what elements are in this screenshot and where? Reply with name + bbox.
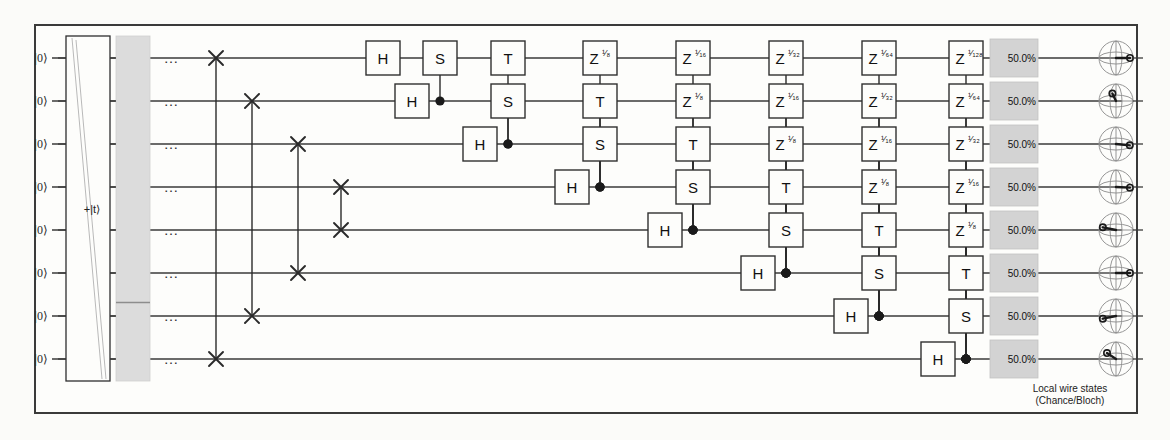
gate-label: S — [688, 179, 698, 196]
gate-label: T — [595, 93, 604, 110]
gate-label: H — [846, 308, 857, 325]
gate-box[interactable] — [862, 84, 896, 118]
gate-box[interactable] — [949, 41, 983, 75]
gate-box[interactable] — [862, 170, 896, 204]
chance-value: 50.0% — [1008, 354, 1036, 365]
gate-label: Z — [775, 93, 784, 110]
control-dot[interactable] — [781, 268, 790, 277]
gate-label: H — [933, 351, 944, 368]
gate-exponent: ¹⁄₁₆ — [968, 177, 980, 187]
gate-label: S — [595, 136, 605, 153]
gate-exponent: ¹⁄₈ — [788, 134, 797, 144]
gate-exponent: ¹⁄₈ — [695, 91, 704, 101]
control-dot[interactable] — [595, 182, 604, 191]
gate-label: S — [874, 265, 884, 282]
gate-exponent: ¹⁄₈ — [881, 177, 890, 187]
wire-continuation: … — [164, 178, 181, 195]
gate-label: T — [781, 179, 790, 196]
qubit-input-label: |0⟩ — [35, 223, 48, 237]
gate-label: T — [688, 136, 697, 153]
circuit-figure: |0⟩…|0⟩…|0⟩…|0⟩…|0⟩…|0⟩…|0⟩…|0⟩…+|t⟩HSHT… — [0, 0, 1170, 440]
control-dot[interactable] — [961, 354, 970, 363]
control-dot[interactable] — [688, 225, 697, 234]
gate-box[interactable] — [949, 213, 983, 247]
control-dot[interactable] — [435, 96, 444, 105]
gate-box[interactable] — [769, 84, 803, 118]
wire-continuation: … — [164, 221, 181, 238]
gate-box[interactable] — [862, 41, 896, 75]
gate-label: H — [407, 93, 418, 110]
gate-box[interactable] — [949, 84, 983, 118]
gate-label: Z — [682, 50, 691, 67]
register-column — [116, 36, 150, 381]
gate-exponent: ¹⁄₁₂₈ — [968, 48, 983, 58]
wire-continuation: … — [164, 135, 181, 152]
chance-value: 50.0% — [1008, 96, 1036, 107]
gate-label: H — [567, 179, 578, 196]
gate-label: T — [874, 222, 883, 239]
wire-continuation: … — [164, 264, 181, 281]
wire-continuation: … — [164, 92, 181, 109]
gate-box[interactable] — [862, 127, 896, 161]
gate-exponent: ¹⁄₃₂ — [968, 134, 980, 144]
gate-label: H — [475, 136, 486, 153]
bloch-vector — [1116, 144, 1130, 145]
gate-exponent: ¹⁄₁₆ — [695, 48, 707, 58]
gate-label: S — [961, 308, 971, 325]
gate-label: Z — [589, 50, 598, 67]
legend-line-2: (Chance/Bloch) — [1036, 395, 1105, 406]
gate-exponent: ¹⁄₈ — [602, 48, 611, 58]
chance-value: 50.0% — [1008, 225, 1036, 236]
qubit-input-label: |0⟩ — [35, 352, 48, 366]
gate-exponent: ¹⁄₃₂ — [881, 91, 893, 101]
wire-continuation: … — [164, 49, 181, 66]
gate-label: Z — [868, 93, 877, 110]
gate-box[interactable] — [949, 170, 983, 204]
wire-continuation: … — [164, 307, 181, 324]
control-dot[interactable] — [503, 139, 512, 148]
gate-box[interactable] — [949, 127, 983, 161]
circuit-canvas: |0⟩…|0⟩…|0⟩…|0⟩…|0⟩…|0⟩…|0⟩…|0⟩…+|t⟩HSHT… — [0, 0, 1170, 440]
gate-box[interactable] — [769, 41, 803, 75]
state-prep-label: +|t⟩ — [84, 203, 100, 215]
gate-exponent: ¹⁄₆₄ — [881, 48, 893, 58]
chance-value: 50.0% — [1008, 268, 1036, 279]
gate-label: S — [503, 93, 513, 110]
gate-label: H — [753, 265, 764, 282]
gate-box[interactable] — [676, 84, 710, 118]
gate-label: Z — [955, 136, 964, 153]
chance-value: 50.0% — [1008, 182, 1036, 193]
gate-label: Z — [955, 179, 964, 196]
gate-label: Z — [955, 222, 964, 239]
gate-exponent: ¹⁄₈ — [968, 220, 977, 230]
chance-value: 50.0% — [1008, 53, 1036, 64]
gate-label: Z — [955, 50, 964, 67]
bloch-vector — [1116, 187, 1130, 188]
qubit-input-label: |0⟩ — [35, 137, 48, 151]
gate-label: Z — [868, 136, 877, 153]
gate-label: S — [781, 222, 791, 239]
chance-value: 50.0% — [1008, 139, 1036, 150]
gate-box[interactable] — [769, 127, 803, 161]
gate-exponent: ¹⁄₁₆ — [788, 91, 800, 101]
gate-label: T — [961, 265, 970, 282]
gate-label: Z — [868, 50, 877, 67]
gate-label: T — [503, 50, 512, 67]
qubit-input-label: |0⟩ — [35, 94, 48, 108]
gate-box[interactable] — [676, 41, 710, 75]
gate-label: Z — [775, 136, 784, 153]
chance-value: 50.0% — [1008, 311, 1036, 322]
gate-label: Z — [775, 50, 784, 67]
qubit-input-label: |0⟩ — [35, 309, 48, 323]
gate-label: Z — [868, 179, 877, 196]
qubit-input-label: |0⟩ — [35, 180, 48, 194]
gate-box[interactable] — [583, 41, 617, 75]
gate-label: S — [435, 50, 445, 67]
gate-exponent: ¹⁄₃₂ — [788, 48, 800, 58]
gate-label: Z — [955, 93, 964, 110]
gate-label: Z — [682, 93, 691, 110]
legend-line-1: Local wire states — [1033, 383, 1107, 394]
control-dot[interactable] — [874, 311, 883, 320]
qubit-input-label: |0⟩ — [35, 51, 48, 65]
wire-continuation: … — [164, 350, 181, 367]
